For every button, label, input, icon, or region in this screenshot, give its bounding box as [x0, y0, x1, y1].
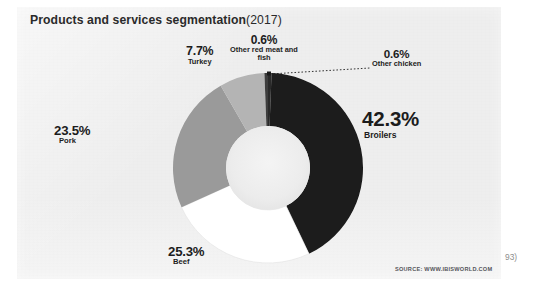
- slice-label-broilers: 42.3% Broilers: [362, 109, 419, 140]
- slice-value-beef: 25.3%: [168, 245, 204, 258]
- chart-title-year: (2017): [246, 13, 282, 27]
- source-attribution: SOURCE: WWW.IBISWORLD.COM: [395, 266, 492, 272]
- slice-label-turkey: 7.7% Turkey: [186, 45, 213, 65]
- slice-label-beef: 25.3% Beef: [168, 245, 204, 266]
- page-title: Products and services segmentation(2017): [30, 13, 282, 27]
- slice-label-pork: 23.5% Pork: [54, 124, 90, 145]
- slice-value-broilers: 42.3%: [362, 109, 419, 130]
- slice-label-other-red-meat-and-fish: 0.6% Other red meat and fish: [228, 34, 300, 62]
- slice-name-other-red-meat-and-fish: Other red meat and fish: [228, 46, 300, 62]
- slice-name-pork: Pork: [59, 137, 90, 145]
- slice-value-turkey: 7.7%: [186, 45, 213, 58]
- page-root: Products and services segmentation(2017): [0, 0, 534, 292]
- slice-label-other-chicken: 0.6% Other chicken: [372, 48, 421, 67]
- slice-name-beef: Beef: [173, 258, 204, 266]
- slice-name-broilers: Broilers: [364, 131, 419, 140]
- chart-title-text: Products and services segmentation: [30, 13, 246, 27]
- page-marker: 93): [505, 252, 517, 262]
- slice-name-turkey: Turkey: [186, 58, 213, 66]
- slice-value-pork: 23.5%: [54, 124, 90, 137]
- slice-name-other-chicken: Other chicken: [372, 60, 421, 68]
